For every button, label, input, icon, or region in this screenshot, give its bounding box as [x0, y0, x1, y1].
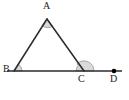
vertex-label-a: A — [43, 1, 50, 11]
vertex-label-b: B — [3, 64, 10, 74]
vertex-label-d: D — [110, 74, 117, 84]
geometry-figure: A B C D — [0, 0, 129, 100]
segment-ac — [47, 19, 84, 71]
vertex-label-c: C — [78, 74, 85, 84]
segment-ab — [14, 19, 47, 71]
geometry-canvas — [0, 0, 129, 100]
